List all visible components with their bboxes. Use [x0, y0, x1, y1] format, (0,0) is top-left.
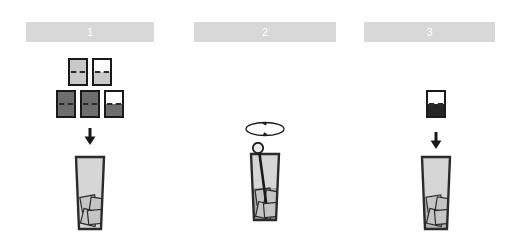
card-white-top-light-bottom — [92, 58, 112, 86]
card-dashed-line — [83, 103, 97, 105]
glass-with-ice — [62, 152, 118, 234]
panel-1-header: 1 — [26, 22, 154, 42]
card-fill-bottom — [428, 104, 444, 116]
panel-2-stage — [180, 42, 350, 237]
panel-2-number: 2 — [262, 27, 268, 38]
ice-cube-cards-group — [56, 58, 124, 118]
procedure-figure: 1 — [0, 0, 521, 237]
transfer-arrow-down-icon — [429, 132, 443, 150]
card-row-single — [426, 90, 446, 118]
panel-3-header: 3 — [364, 22, 495, 42]
card-dashed-line — [429, 103, 443, 105]
card-fill-bottom — [106, 104, 122, 116]
card-fill-bottom — [70, 72, 86, 84]
card-dark-dashed-b — [80, 90, 100, 118]
card-light-dashed — [68, 58, 88, 86]
card-dashed-line — [59, 103, 73, 105]
card-fill-bottom — [82, 104, 98, 116]
panel-1-number: 1 — [87, 27, 93, 38]
panel-3-number: 3 — [426, 27, 432, 38]
card-row-bottom — [56, 90, 124, 118]
card-fill-bottom — [58, 104, 74, 116]
card-white-top-dark-bottom — [104, 90, 124, 118]
panel-1: 1 — [0, 0, 180, 237]
card-dashed-line — [107, 103, 121, 105]
card-white-top-dark-bottom — [426, 90, 446, 118]
card-fill-bottom — [94, 72, 110, 84]
card-dashed-line — [95, 71, 109, 73]
sample-card-group — [426, 90, 446, 118]
rotation-arrow-ellipse-icon — [243, 120, 287, 138]
card-dark-dashed-a — [56, 90, 76, 118]
glass-with-stir-rod — [237, 142, 293, 224]
panel-3: 3 — [350, 0, 521, 237]
panel-2: 2 — [180, 0, 350, 237]
panel-2-header: 2 — [194, 22, 336, 42]
card-dashed-line — [71, 71, 85, 73]
glass-with-ice — [408, 152, 464, 234]
panel-3-stage — [350, 42, 521, 237]
stir-rod-knob — [253, 143, 263, 153]
panel-1-stage — [0, 42, 180, 237]
card-row-top — [56, 58, 124, 86]
transfer-arrow-down-icon — [83, 128, 97, 146]
